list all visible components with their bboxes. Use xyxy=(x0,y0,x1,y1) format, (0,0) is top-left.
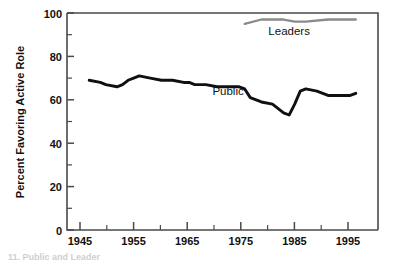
plot-axes xyxy=(67,13,378,230)
axis-frame-top-right xyxy=(67,13,378,230)
figure-caption-fragment: 11. Public and Leader xyxy=(8,252,248,261)
y-tick-label: 60 xyxy=(50,94,62,106)
y-tick-label: 0 xyxy=(56,225,62,237)
axis-spines xyxy=(67,13,378,230)
figure-container: 100 80 60 40 20 0 1945 1955 xyxy=(0,0,401,261)
x-tick-label: 1965 xyxy=(175,235,199,247)
y-tick-label: 40 xyxy=(50,138,62,150)
x-tick-label: 1995 xyxy=(336,235,360,247)
x-tick-label: 1975 xyxy=(229,235,253,247)
y-tick-label: 80 xyxy=(50,51,62,63)
y-axis-tick-labels: 100 80 60 40 20 0 xyxy=(44,8,62,237)
x-tick-label: 1945 xyxy=(68,235,92,247)
series-annotation-leaders: Leaders xyxy=(268,25,310,37)
y-axis-title: Percent Favoring Active Role xyxy=(14,46,26,198)
y-tick-label: 20 xyxy=(50,181,62,193)
series-line-leaders xyxy=(245,20,356,24)
line-chart: 100 80 60 40 20 0 1945 1955 xyxy=(0,0,401,261)
series-annotation-public: Public xyxy=(212,85,244,97)
y-tick-label: 100 xyxy=(44,8,62,20)
x-tick-label: 1985 xyxy=(282,235,306,247)
x-axis-tick-labels: 1945 1955 1965 1975 1985 1995 xyxy=(68,235,360,247)
x-tick-label: 1955 xyxy=(121,235,145,247)
